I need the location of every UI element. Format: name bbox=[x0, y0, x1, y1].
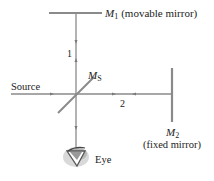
eye-label: Eye bbox=[95, 154, 112, 165]
arrow-up-icon bbox=[75, 58, 78, 62]
path-2-label: 2 bbox=[120, 98, 125, 109]
arrow-left-icon bbox=[132, 93, 136, 96]
arrow-right-icon bbox=[50, 93, 54, 96]
arrow-right-icon bbox=[112, 93, 116, 96]
arrow-down-icon bbox=[75, 126, 78, 130]
michelson-interferometer-diagram: M1(movable mirror) 1 MS Source 2 M2 (fix… bbox=[0, 0, 214, 181]
path-1-label: 1 bbox=[67, 48, 72, 59]
source-label: Source bbox=[11, 81, 40, 92]
m2-description: (fixed mirror) bbox=[143, 139, 202, 151]
arrow-down-icon bbox=[75, 40, 78, 44]
m2-label: M2 bbox=[165, 126, 179, 140]
eye-icon bbox=[63, 147, 89, 167]
m1-label: M1(movable mirror) bbox=[104, 7, 198, 21]
ms-label: MS bbox=[87, 69, 102, 83]
